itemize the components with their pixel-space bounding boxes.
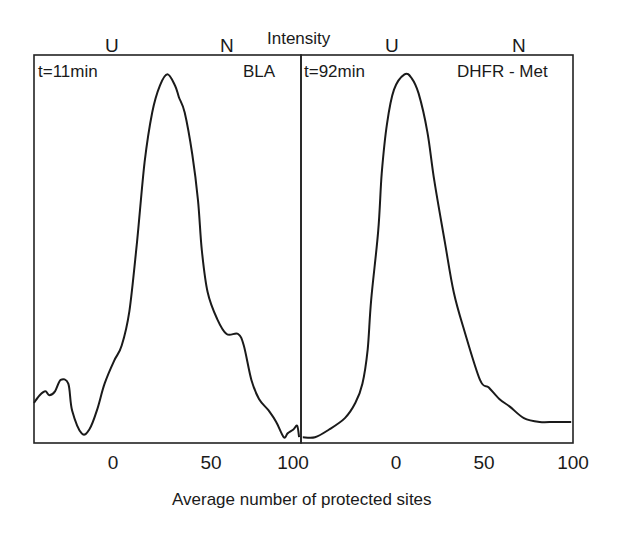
- y-axis-label: Intensity: [267, 29, 330, 49]
- left-protein-label: BLA: [243, 62, 275, 82]
- x-axis-label: Average number of protected sites: [172, 490, 432, 510]
- right-tick-100: 100: [557, 452, 589, 474]
- right-tick-50: 50: [473, 452, 494, 474]
- right-time-label: t=92min: [304, 62, 365, 82]
- left-panel-frame: [34, 55, 301, 443]
- right-tick-0: 0: [391, 452, 402, 474]
- right-unfolded-marker: U: [385, 35, 399, 57]
- left-tick-50: 50: [200, 452, 221, 474]
- left-tick-100: 100: [277, 452, 309, 474]
- bla-intensity-curve: [34, 74, 299, 437]
- right-protein-label: DHFR - Met: [457, 62, 548, 82]
- dhfr-met-intensity-curve: [303, 74, 571, 438]
- left-unfolded-marker: U: [105, 35, 119, 57]
- left-native-marker: N: [220, 35, 234, 57]
- right-panel-frame: [301, 55, 573, 443]
- left-tick-0: 0: [108, 452, 119, 474]
- left-time-label: t=11min: [38, 62, 98, 82]
- right-native-marker: N: [512, 35, 526, 57]
